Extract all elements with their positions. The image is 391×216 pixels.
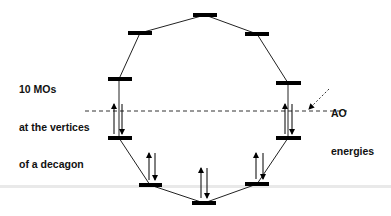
mo-level-mid-lower-right (276, 136, 301, 140)
mo-level-upper-left (128, 31, 152, 35)
ao-caption-line: energies (331, 145, 374, 158)
mos-caption-line: of a decagon (19, 158, 90, 171)
ao-caption-line: AO (331, 107, 374, 120)
mo-level-mid-upper-left (108, 77, 132, 81)
mos-caption-line: 10 MOs (19, 83, 90, 96)
mo-level-bottom (192, 201, 216, 205)
mo-level-top (193, 13, 217, 17)
mo-levels (108, 13, 301, 205)
mos-caption-line: at the vertices (19, 121, 90, 134)
ao-pointer-arrow (309, 89, 329, 109)
mo-level-mid-lower-left (108, 136, 132, 140)
ao-energies-caption: AO energies (331, 82, 374, 170)
mo-level-lower-left (139, 183, 162, 187)
mos-caption: 10 MOs at the vertices of a decagon (19, 58, 90, 183)
mo-level-mid-upper-right (276, 81, 301, 85)
mo-level-upper-right (245, 32, 269, 36)
mo-level-lower-right (245, 182, 269, 186)
